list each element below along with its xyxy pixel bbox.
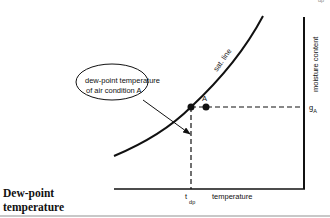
x-tick-main: t	[185, 192, 188, 201]
point-a-label: A	[202, 94, 207, 103]
top-right-fragment: dp	[318, 0, 324, 3]
y-tick-subscript: A	[313, 108, 317, 114]
dew-point-marker	[188, 104, 195, 111]
x-tick-label: tdp	[185, 192, 195, 205]
point-a-marker	[203, 104, 210, 111]
x-tick-subscript: dp	[189, 199, 195, 205]
callout-text-line2: of air condition A	[86, 86, 141, 95]
y-axis-label: moisture content	[311, 36, 320, 92]
figure-caption: Dew-point temperature	[3, 186, 64, 214]
callout-text-line1: dew-point temperature	[85, 76, 160, 85]
y-tick-label: gA	[309, 103, 317, 114]
curve-label: sat. line	[211, 47, 233, 73]
bottom-divider	[0, 215, 330, 217]
caption-line-1: Dew-point	[3, 186, 64, 200]
callout-arrow	[143, 100, 190, 134]
caption-line-2: temperature	[3, 200, 64, 214]
x-axis-label: temperature	[212, 192, 252, 201]
